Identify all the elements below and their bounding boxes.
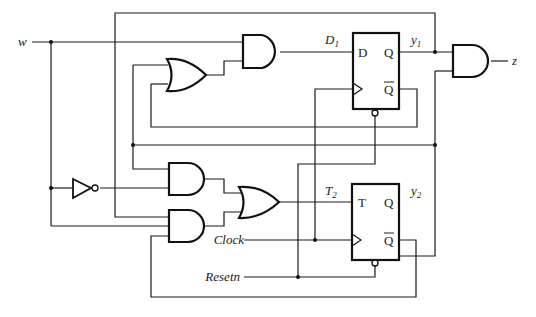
- not-gate-w: [73, 179, 91, 198]
- or-gate-d1-feedback: [167, 59, 206, 91]
- ff2-t-pin-label: T: [358, 195, 366, 210]
- clock-label: Clock: [214, 232, 245, 247]
- and-gate-z: [453, 45, 488, 77]
- output-z-label: z: [511, 53, 517, 68]
- y1-signal-label: y1: [409, 32, 421, 49]
- and-gate-upper-t2: [169, 163, 204, 195]
- resetn-label: Resetn: [204, 269, 240, 284]
- ff2-qbar-pin-label: Q: [384, 233, 394, 248]
- ff1-qbar-pin-label: Q: [384, 82, 394, 97]
- and-gate-lower-t2: [169, 210, 204, 242]
- ff1-q-pin-label: Q: [384, 45, 394, 60]
- y2-signal-label: y2: [409, 183, 422, 200]
- d1-signal-label: D1: [324, 32, 339, 49]
- input-w-label: w: [18, 34, 27, 49]
- not-gate-bubble: [92, 185, 98, 191]
- and-gate-d1: [243, 35, 275, 68]
- or-gate-t2: [239, 187, 279, 218]
- ff1-d-pin-label: D: [358, 45, 367, 60]
- t2-signal-label: T2: [325, 183, 337, 200]
- circuit-diagram: w z Clock Resetn D1 T2 y1 y2 D Q Q T Q Q: [0, 0, 536, 317]
- ff2-q-pin-label: Q: [384, 195, 394, 210]
